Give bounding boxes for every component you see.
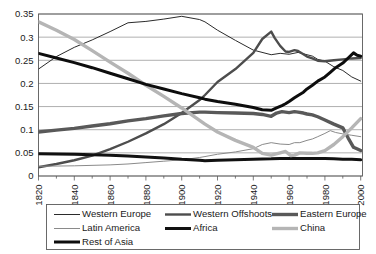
legend-label: Western Offshoots (193, 208, 272, 219)
share-of-world-gdp-line-chart: 00.050.10.150.20.250.30.35 1820184018601… (0, 0, 376, 254)
legend-label: Eastern Europe (300, 208, 367, 219)
y-tick-label: 0.3 (20, 32, 33, 43)
legend-label: China (300, 222, 326, 233)
chart-container: 00.050.10.150.20.250.30.35 1820184018601… (0, 0, 376, 254)
x-tick-label: 1960 (284, 185, 295, 206)
y-tick-label: 0.35 (15, 8, 34, 19)
x-tick-label: 1880 (141, 185, 152, 206)
x-tick-label: 1820 (33, 185, 44, 206)
legend-label: Latin America (82, 222, 141, 233)
x-tick-label: 1980 (320, 185, 331, 206)
legend-label: Africa (193, 222, 218, 233)
x-tick-label: 1860 (105, 185, 116, 206)
x-tick-label: 1920 (212, 185, 223, 206)
x-tick-label: 1940 (248, 185, 259, 206)
y-tick-label: 0.15 (15, 101, 34, 112)
legend-label: Western Europe (82, 208, 151, 219)
chart-legend: Western EuropeWestern OffshootsEastern E… (47, 205, 367, 250)
y-tick-label: 0.2 (20, 78, 33, 89)
x-tick-label: 1840 (69, 185, 80, 206)
legend-label: Rest of Asia (82, 236, 134, 247)
y-tick-label: 0.05 (15, 147, 34, 158)
y-tick-label: 0.25 (15, 55, 34, 66)
x-tick-label: 1900 (176, 185, 187, 206)
x-tick-label: 2000 (355, 185, 366, 206)
y-tick-label: 0.1 (20, 124, 33, 135)
y-tick-label: 0 (28, 170, 33, 181)
